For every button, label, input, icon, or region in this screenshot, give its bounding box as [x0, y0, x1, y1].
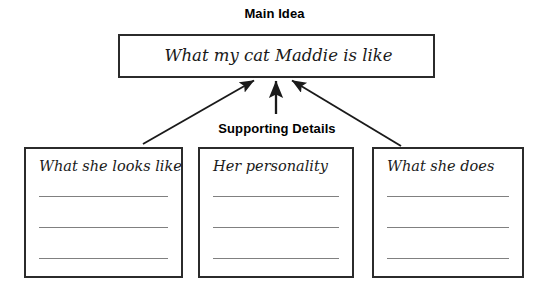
main-idea-text: What my cat Maddie is like	[120, 46, 437, 65]
main-idea-box[interactable]: What my cat Maddie is like	[118, 34, 435, 78]
supporting-detail-heading-3: What she does	[387, 158, 494, 174]
main-idea-label: Main Idea	[0, 6, 549, 21]
writing-line[interactable]	[387, 196, 509, 197]
writing-line[interactable]	[39, 258, 168, 259]
writing-line[interactable]	[387, 227, 509, 228]
supporting-detail-heading-1: What she looks like	[39, 158, 182, 174]
supporting-detail-box-1[interactable]: What she looks like	[24, 147, 183, 278]
arrow-right	[292, 81, 401, 147]
supporting-detail-box-3[interactable]: What she does	[372, 147, 524, 278]
writing-line[interactable]	[213, 196, 339, 197]
graphic-organizer: Main Idea What my cat Maddie is like Sup…	[0, 0, 549, 290]
supporting-detail-box-2[interactable]: Her personality	[198, 147, 354, 278]
writing-line[interactable]	[213, 258, 339, 259]
supporting-detail-heading-2: Her personality	[213, 158, 328, 174]
writing-line[interactable]	[39, 227, 168, 228]
writing-line[interactable]	[213, 227, 339, 228]
supporting-details-label: Supporting Details	[157, 121, 397, 136]
writing-line[interactable]	[39, 196, 168, 197]
writing-line[interactable]	[387, 258, 509, 259]
